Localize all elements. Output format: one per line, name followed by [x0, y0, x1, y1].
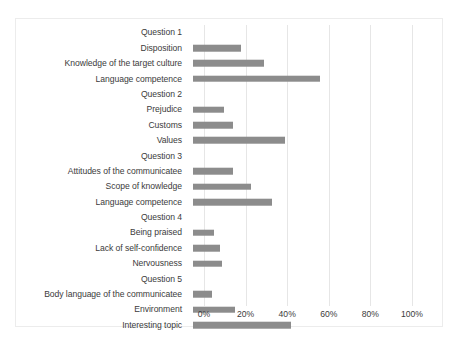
- bar-row: Customs: [16, 117, 444, 132]
- bar-row: Body language of the communicatee: [16, 287, 444, 302]
- bar-row: Question 1: [16, 25, 444, 40]
- bar-track: [193, 87, 401, 102]
- bar: [193, 45, 241, 52]
- bar-track: [193, 117, 401, 132]
- bar-track: [193, 164, 401, 179]
- bar-row: Prejudice: [16, 102, 444, 117]
- category-label: Question 3: [16, 152, 193, 161]
- bar-row: Scope of knowledge: [16, 179, 444, 194]
- bar: [193, 122, 233, 129]
- chart-frame: Question 1DispositionKnowledge of the ta…: [15, 18, 443, 327]
- bar-track: [193, 210, 401, 225]
- bar: [193, 183, 251, 190]
- bar-row: Values: [16, 133, 444, 148]
- category-label: Being praised: [16, 228, 193, 237]
- bar-row: Nervousness: [16, 256, 444, 271]
- bar-rows: Question 1DispositionKnowledge of the ta…: [16, 25, 444, 333]
- category-label: Interesting topic: [16, 321, 193, 330]
- bar-row: Question 4: [16, 210, 444, 225]
- x-tick-label: 80%: [362, 310, 379, 319]
- bar: [193, 168, 233, 175]
- category-label: Body language of the communicatee: [16, 290, 193, 299]
- bar: [193, 60, 264, 67]
- bar: [193, 260, 222, 267]
- bar-track: [193, 179, 401, 194]
- category-label: Question 2: [16, 90, 193, 99]
- bar-row: Question 5: [16, 271, 444, 286]
- bar: [193, 245, 220, 252]
- bar-row: Knowledge of the target culture: [16, 56, 444, 71]
- x-tick-label: 100%: [401, 310, 423, 319]
- bar-row: Question 2: [16, 87, 444, 102]
- category-label: Question 5: [16, 275, 193, 284]
- bar: [193, 229, 214, 236]
- category-label: Knowledge of the target culture: [16, 59, 193, 68]
- category-label: Prejudice: [16, 105, 193, 114]
- category-label: Attitudes of the communicatee: [16, 167, 193, 176]
- category-label: Language competence: [16, 198, 193, 207]
- bar-row: Disposition: [16, 40, 444, 55]
- category-label: Customs: [16, 121, 193, 130]
- x-tick-label: 40%: [279, 310, 296, 319]
- x-tick-label: 20%: [237, 310, 254, 319]
- x-axis: 0%20%40%60%80%100%: [204, 310, 412, 324]
- bar-track: [193, 71, 401, 86]
- category-label: Language competence: [16, 75, 193, 84]
- bar-row: Lack of self-confidence: [16, 240, 444, 255]
- bar-row: Language competence: [16, 194, 444, 209]
- category-label: Values: [16, 136, 193, 145]
- bar-track: [193, 225, 401, 240]
- category-label: Nervousness: [16, 259, 193, 268]
- bar: [193, 137, 285, 144]
- bar-row: Being praised: [16, 225, 444, 240]
- x-tick-label: 60%: [320, 310, 337, 319]
- bar-track: [193, 148, 401, 163]
- bar-track: [193, 240, 401, 255]
- bar-track: [193, 133, 401, 148]
- bar-row: Question 3: [16, 148, 444, 163]
- bar-track: [193, 56, 401, 71]
- bar-track: [193, 40, 401, 55]
- bar: [193, 106, 224, 113]
- category-label: Scope of knowledge: [16, 182, 193, 191]
- x-tick-label: 0%: [198, 310, 210, 319]
- bar: [193, 76, 320, 83]
- bar-track: [193, 25, 401, 40]
- bar-track: [193, 287, 401, 302]
- category-label: Lack of self-confidence: [16, 244, 193, 253]
- bar: [193, 291, 212, 298]
- bar-track: [193, 271, 401, 286]
- bar-row: Attitudes of the communicatee: [16, 164, 444, 179]
- bar-track: [193, 194, 401, 209]
- bar-track: [193, 256, 401, 271]
- bar-row: Language competence: [16, 71, 444, 86]
- category-label: Disposition: [16, 44, 193, 53]
- category-label: Question 4: [16, 213, 193, 222]
- plot-area: Question 1DispositionKnowledge of the ta…: [16, 19, 444, 328]
- category-label: Question 1: [16, 28, 193, 37]
- bar: [193, 199, 272, 206]
- category-label: Environment: [16, 305, 193, 314]
- bar-track: [193, 102, 401, 117]
